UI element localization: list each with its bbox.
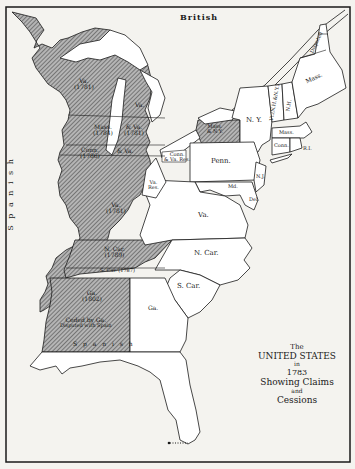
label-british: British	[180, 13, 218, 21]
label-ga-1802: Ga. (1802)	[82, 290, 102, 302]
label-ncar-1789: N. Car. (1789)	[104, 246, 125, 258]
label-va-1781-mid: & Va. (1781)	[124, 124, 144, 136]
label-conn: Conn.	[274, 143, 289, 148]
label-va-res: Va. Res.	[148, 180, 159, 190]
label-md: Md.	[228, 184, 238, 189]
label-conn-va: & Va.	[117, 148, 134, 154]
label-sc-1787: S. Car. (1787)	[100, 268, 135, 273]
title-and: and	[242, 388, 352, 395]
label-va-north-year: (1781)	[74, 84, 94, 90]
label-ri: R.I.	[303, 146, 312, 151]
label-scar: S. Car.	[177, 283, 200, 290]
label-disputed-spain: Disputed with Spain	[60, 323, 111, 328]
label-ncar-1789-year: (1789)	[104, 252, 125, 258]
label-mass: Mass.	[279, 130, 294, 135]
label-va-mid-year: (1781)	[124, 130, 144, 136]
title-the: The	[242, 343, 352, 351]
label-va-res-sub: Res.	[148, 185, 159, 190]
label-ga: Ga.	[148, 305, 158, 311]
title-cessions: Cessions	[242, 395, 352, 405]
label-spanish-west: S p a n i s h	[7, 157, 15, 231]
title-year: 1783	[242, 368, 352, 377]
label-nj: N.J.	[256, 174, 265, 179]
label-mass-ny: Mass. & N.Y.	[207, 124, 223, 134]
label-va: Va.	[198, 212, 209, 219]
label-va-south-year: (1781)	[106, 208, 126, 214]
label-va-1781-south: Va. (1781)	[106, 202, 126, 214]
label-penn: Penn.	[211, 158, 231, 165]
label-va-michigan: Va.	[135, 102, 144, 108]
label-spanish-south: S p a n i s h	[73, 341, 135, 347]
label-va-1781-north: Va. (1781)	[74, 78, 94, 90]
label-conn-va-res: Conn. & Va. Res.	[164, 152, 190, 162]
label-conn-1786-year: (1786)	[80, 153, 100, 159]
label-ny: N. Y.	[246, 117, 262, 124]
label-ceded-ga: Ceded by Ga. Disputed with Spain	[60, 317, 111, 328]
label-conn-1786: Conn. (1786)	[80, 147, 100, 159]
label-ga-1802-year: (1802)	[82, 296, 102, 302]
map-title-block: The UNITED STATES in 1783 Showing Claims…	[242, 343, 352, 405]
title-in: in	[242, 361, 352, 368]
label-mass-1784: Mass. (1784)	[93, 124, 113, 136]
label-del: Del.	[249, 197, 259, 202]
label-conn-res-sub: & Va. Res.	[164, 157, 190, 162]
label-ncar: N. Car.	[194, 250, 218, 257]
label-mass-1784-year: (1784)	[93, 130, 113, 136]
label-mass-ny-sub: & N.Y.	[207, 129, 223, 134]
